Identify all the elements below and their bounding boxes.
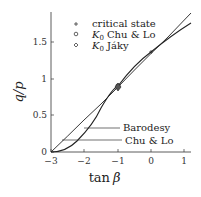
- x-tick-label: 0: [148, 156, 154, 166]
- chart-root: −3 −2 −1 0 1 0 0.5 1 1.5 q/p tan β: [0, 0, 201, 197]
- legend-item-critical-state: critical state: [74, 18, 156, 29]
- y-tick-label: 0.5: [33, 110, 48, 120]
- x-ticks: [51, 149, 184, 152]
- annotation-barodesy: Barodesy: [84, 122, 171, 133]
- y-tick-labels: 0 0.5 1 1.5: [33, 37, 48, 157]
- chart-svg: −3 −2 −1 0 1 0 0.5 1 1.5 q/p tan β: [0, 0, 201, 197]
- plus-marker-icon: [74, 22, 78, 26]
- x-tick-label: −2: [77, 156, 90, 166]
- x-tick-label: 1: [181, 156, 187, 166]
- y-tick-label: 1.5: [33, 37, 48, 47]
- y-axis-label: q/p: [11, 81, 26, 103]
- diamond-marker-icon: [74, 43, 78, 47]
- x-axis-label-tan: tan: [89, 170, 111, 185]
- x-tick-label: −3: [44, 156, 58, 166]
- y-tick-label: 0: [41, 147, 47, 157]
- annotation-label: Barodesy: [123, 122, 171, 133]
- x-tick-label: −1: [111, 156, 124, 166]
- circle-marker-icon: [74, 32, 78, 36]
- legend: critical state K0Chu & Lo K0Jáky: [74, 18, 156, 53]
- x-axis-label-beta: β: [112, 170, 121, 185]
- annotation-label: Chu & Lo: [125, 135, 173, 146]
- y-tick-label: 1: [41, 74, 47, 84]
- y-ticks: [51, 42, 54, 152]
- annotation-chu-lo: Chu & Lo: [62, 135, 173, 146]
- legend-label: critical state: [92, 18, 156, 29]
- x-tick-labels: −3 −2 −1 0 1: [44, 156, 187, 166]
- legend-label: K0Jáky: [91, 40, 129, 53]
